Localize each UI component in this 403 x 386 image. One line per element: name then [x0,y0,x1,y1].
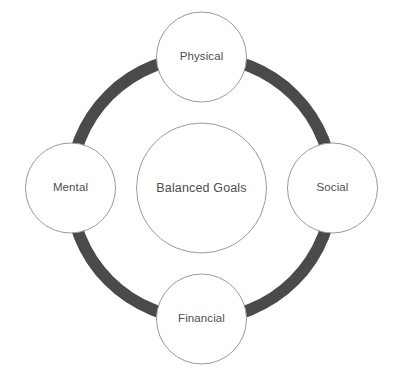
node-label-social: Social [317,182,349,194]
diagram-canvas: Balanced Goals Physical Social Financial… [0,0,403,386]
node-label-financial: Financial [178,313,225,325]
hub-label-balanced-goals: Balanced Goals [156,182,246,195]
node-label-physical: Physical [180,51,224,63]
node-label-mental: Mental [53,182,88,194]
